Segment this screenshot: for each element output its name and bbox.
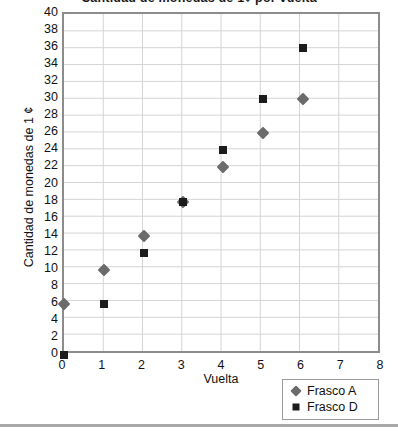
- y-tick-label: 32: [18, 74, 58, 87]
- data-point-diamond: [58, 297, 71, 310]
- y-tick-label: 4: [18, 313, 58, 326]
- y-axis-tick-labels: 0246810121416182022242628303234363840: [14, 12, 58, 353]
- chart-title: Cantidad de monedas de 1¢ por vuelta: [0, 0, 398, 5]
- data-point-diamond: [137, 229, 150, 242]
- plot-area: [62, 12, 380, 353]
- data-point-square: [259, 95, 267, 103]
- data-points-layer: [64, 14, 378, 351]
- y-tick-label: 36: [18, 40, 58, 53]
- x-tick-label: 2: [129, 359, 155, 372]
- y-tick-label: 20: [18, 176, 58, 189]
- y-tick-label: 24: [18, 142, 58, 155]
- data-point-diamond: [296, 93, 309, 106]
- data-point-diamond: [217, 161, 230, 174]
- data-point-square: [179, 198, 187, 206]
- y-tick-label: 40: [18, 6, 58, 19]
- data-point-diamond: [97, 263, 110, 276]
- bottom-divider: [0, 424, 398, 427]
- x-tick-label: 3: [168, 359, 194, 372]
- y-tick-label: 26: [18, 125, 58, 138]
- y-tick-label: 16: [18, 210, 58, 223]
- x-tick-label: 0: [49, 359, 75, 372]
- y-tick-label: 22: [18, 159, 58, 172]
- legend-label: Frasco D: [307, 401, 358, 414]
- x-tick-label: 8: [367, 359, 393, 372]
- y-tick-label: 28: [18, 108, 58, 121]
- data-point-square: [140, 249, 148, 257]
- legend-item-frasco-d: Frasco D: [289, 399, 372, 415]
- data-point-diamond: [256, 127, 269, 140]
- data-point-square: [100, 300, 108, 308]
- y-tick-label: 30: [18, 91, 58, 104]
- y-tick-label: 0: [18, 347, 58, 360]
- y-tick-label: 10: [18, 262, 58, 275]
- y-tick-label: 38: [18, 23, 58, 36]
- legend-item-frasco-a: Frasco A: [289, 383, 372, 399]
- x-tick-label: 1: [89, 359, 115, 372]
- chart-legend: Frasco AFrasco D: [282, 379, 379, 420]
- y-tick-label: 12: [18, 244, 58, 257]
- y-tick-label: 18: [18, 193, 58, 206]
- data-point-square: [299, 44, 307, 52]
- legend-label: Frasco A: [307, 385, 356, 398]
- y-tick-label: 6: [18, 296, 58, 309]
- x-tick-label: 7: [327, 359, 353, 372]
- y-tick-label: 14: [18, 227, 58, 240]
- x-tick-label: 4: [208, 359, 234, 372]
- x-tick-label: 6: [288, 359, 314, 372]
- y-tick-label: 34: [18, 57, 58, 70]
- y-tick-label: 2: [18, 330, 58, 343]
- diamond-marker-icon: [289, 384, 303, 398]
- square-marker-icon: [289, 400, 303, 414]
- x-tick-label: 5: [248, 359, 274, 372]
- data-point-square: [219, 146, 227, 154]
- y-tick-label: 8: [18, 279, 58, 292]
